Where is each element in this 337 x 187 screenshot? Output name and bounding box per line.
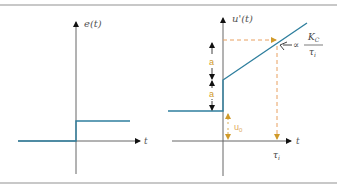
- tau-i-label: τi: [273, 150, 280, 161]
- pi-response-signal: [168, 23, 307, 111]
- right-x-label: t: [296, 136, 300, 146]
- diagram-canvas: e(t) t a a u0 u'(t) t τi ∝ KC: [0, 0, 337, 187]
- left-x-label: t: [144, 136, 148, 146]
- slope-proportional-sign: ∝: [293, 40, 299, 50]
- slope-numerator: KC: [307, 32, 320, 43]
- u0-label: u0: [234, 122, 243, 133]
- left-y-label: e(t): [84, 18, 102, 29]
- right-y-label: u'(t): [232, 13, 253, 24]
- slope-denominator: τi: [309, 47, 316, 58]
- slope-angle-mark: [280, 42, 287, 50]
- step-signal: [18, 121, 130, 141]
- a-lower-label: a: [209, 89, 214, 99]
- left-plot: e(t) t: [18, 18, 148, 174]
- a-upper-label: a: [209, 57, 214, 67]
- right-plot: a a u0 u'(t) t τi ∝ KC τi: [168, 13, 323, 176]
